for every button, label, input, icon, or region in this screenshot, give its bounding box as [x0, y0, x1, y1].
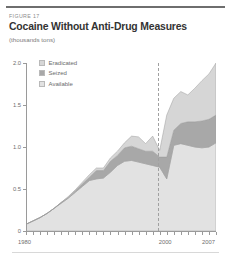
x-tick-label: 2000: [159, 239, 172, 245]
y-tick: [23, 147, 26, 148]
x-tick: [110, 232, 111, 235]
x-tick: [195, 232, 196, 235]
y-axis-line: [26, 63, 27, 231]
x-tick-label: 1980: [18, 239, 31, 245]
x-tick: [54, 232, 55, 235]
x-tick: [209, 232, 210, 235]
x-tick: [89, 232, 90, 235]
x-tick: [68, 232, 69, 235]
figure-number: FIGURE 17: [9, 13, 40, 19]
y-tick-label: 0.5: [5, 186, 21, 192]
x-tick: [132, 232, 133, 235]
x-tick: [153, 232, 154, 235]
x-tick: [61, 232, 62, 235]
figure-title: Cocaine Without Anti-Drug Measures: [9, 21, 187, 32]
x-tick: [33, 232, 34, 235]
x-tick: [167, 232, 168, 235]
top-divider-rule: [6, 6, 225, 8]
x-tick: [75, 232, 76, 235]
x-tick: [47, 232, 48, 235]
figure-subtitle: (thousands tons): [9, 36, 55, 43]
x-tick: [188, 232, 189, 235]
y-tick-label: 0: [5, 228, 21, 234]
x-tick: [125, 232, 126, 235]
x-tick: [82, 232, 83, 235]
plot-area: [26, 63, 216, 231]
x-tick: [96, 232, 97, 235]
y-tick: [23, 189, 26, 190]
x-tick: [202, 232, 203, 235]
x-tick: [146, 232, 147, 235]
y-tick-label: 1.0: [5, 144, 21, 150]
x-tick: [181, 232, 182, 235]
x-tick: [103, 232, 104, 235]
x-tick: [118, 232, 119, 235]
x-tick: [139, 232, 140, 235]
figure-container: FIGURE 17 Cocaine Without Anti-Drug Meas…: [0, 0, 231, 264]
x-tick-label: 2007: [202, 239, 215, 245]
y-tick: [23, 105, 26, 106]
x-tick: [216, 232, 217, 235]
y-tick: [23, 63, 26, 64]
bottom-divider-rule: [12, 252, 219, 253]
projection-divider-line: [158, 63, 159, 231]
y-tick-label: 1.5: [5, 102, 21, 108]
stacked-area-paths: [26, 63, 216, 231]
x-tick: [174, 232, 175, 235]
x-tick: [26, 232, 27, 235]
x-tick: [40, 232, 41, 235]
y-tick-label: 2.0: [5, 60, 21, 66]
x-tick: [160, 232, 161, 235]
